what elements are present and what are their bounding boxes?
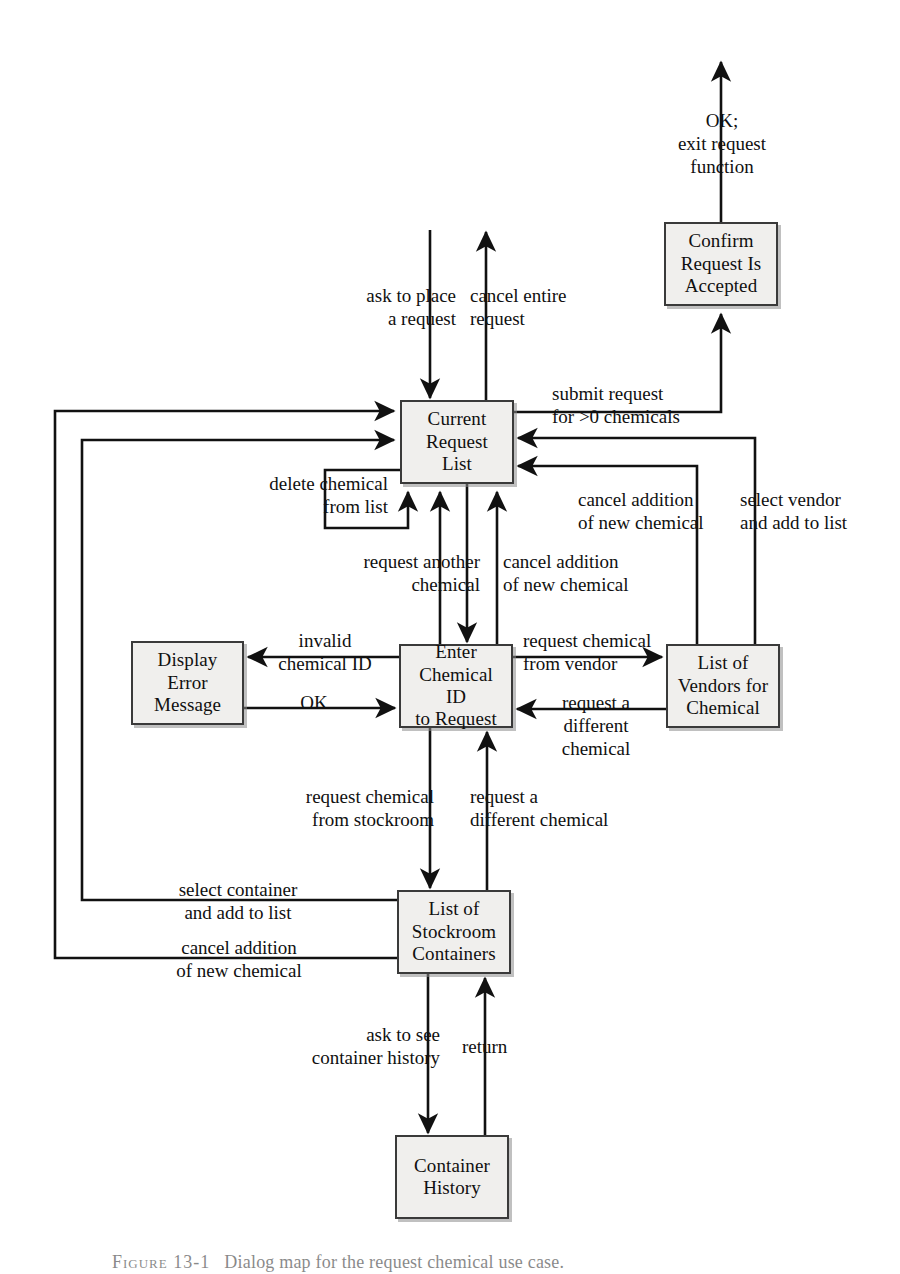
node-line: List of bbox=[408, 898, 500, 920]
node-line: Chemical ID bbox=[405, 664, 507, 709]
edge-label-select-container-and-add-to-list: select container and add to list bbox=[150, 879, 326, 925]
figure-caption: Figure 13-1 Dialog map for the request c… bbox=[112, 1252, 564, 1273]
edge-label-cancel-addition-of-new-chemical-left: cancel addition of new chemical bbox=[146, 937, 332, 983]
edge-label-cancel-addition-of-new-chemical-right: cancel addition of new chemical bbox=[578, 489, 742, 535]
node-line: List of bbox=[674, 652, 772, 674]
edge-label-request-chemical-from-stockroom: request chemical from stockroom bbox=[258, 786, 434, 832]
node-line: Stockroom bbox=[408, 921, 500, 943]
node-line: Chemical bbox=[674, 697, 772, 719]
figure-number: Figure 13-1 bbox=[112, 1252, 210, 1272]
edge-label-request-another-chemical: request another chemical bbox=[320, 551, 480, 597]
edge-label-return: return bbox=[462, 1036, 538, 1059]
edge-label-delete-chemical-from-list: delete chemical from list bbox=[228, 473, 388, 519]
enter-chemical-id-node[interactable]: Enter Chemical ID to Request bbox=[399, 644, 513, 728]
node-line: Confirm bbox=[677, 230, 766, 252]
edge-label-submit-request: submit request for >0 chemicals bbox=[552, 383, 722, 429]
wire-select-vendor-add bbox=[518, 438, 755, 644]
edge-label-cancel-entire-request: cancel entire request bbox=[470, 285, 610, 331]
node-line: Request bbox=[422, 431, 492, 453]
edge-label-ok: OK bbox=[292, 692, 336, 715]
node-line: Error bbox=[150, 672, 225, 694]
node-line: Containers bbox=[408, 943, 500, 965]
edge-label-request-a-different-chemical-stockroom: request a different chemical bbox=[470, 786, 656, 832]
edge-label-ask-to-see-container-history: ask to see container history bbox=[262, 1024, 440, 1070]
node-line: Message bbox=[150, 694, 225, 716]
container-history-node[interactable]: Container History bbox=[395, 1135, 509, 1219]
connector-layer bbox=[0, 0, 900, 1274]
edge-label-ask-to-place-a-request: ask to place a request bbox=[330, 285, 456, 331]
node-line: List bbox=[422, 453, 492, 475]
edge-label-ok-exit-request-function: OK; exit request function bbox=[652, 110, 792, 178]
node-line: Display bbox=[150, 649, 225, 671]
edge-label-select-vendor-and-add-to-list: select vendor and add to list bbox=[740, 489, 892, 535]
list-of-stockroom-containers-node[interactable]: List of Stockroom Containers bbox=[397, 890, 511, 974]
node-line: Container bbox=[410, 1155, 494, 1177]
edge-label-invalid-chemical-id: invalid chemical ID bbox=[258, 630, 392, 676]
diagram-canvas: Confirm Request Is Accepted Current Requ… bbox=[0, 0, 900, 1274]
confirm-request-accepted-node[interactable]: Confirm Request Is Accepted bbox=[664, 222, 778, 306]
edge-label-request-a-different-chemical-vendor: request a different chemical bbox=[532, 692, 660, 760]
edge-label-cancel-addition-of-new-chemical-mid: cancel addition of new chemical bbox=[503, 551, 673, 597]
node-line: Request Is bbox=[677, 253, 766, 275]
node-line: Vendors for bbox=[674, 675, 772, 697]
current-request-list-node[interactable]: Current Request List bbox=[400, 400, 514, 484]
edge-label-request-chemical-from-vendor: request chemical from vendor bbox=[523, 630, 687, 676]
figure-caption-text: Dialog map for the request chemical use … bbox=[224, 1252, 564, 1272]
node-line: History bbox=[410, 1177, 494, 1199]
node-line: Current bbox=[422, 408, 492, 430]
node-line: to Request bbox=[405, 708, 507, 730]
node-line: Enter bbox=[405, 641, 507, 663]
display-error-message-node[interactable]: Display Error Message bbox=[131, 641, 244, 725]
node-line: Accepted bbox=[677, 275, 766, 297]
